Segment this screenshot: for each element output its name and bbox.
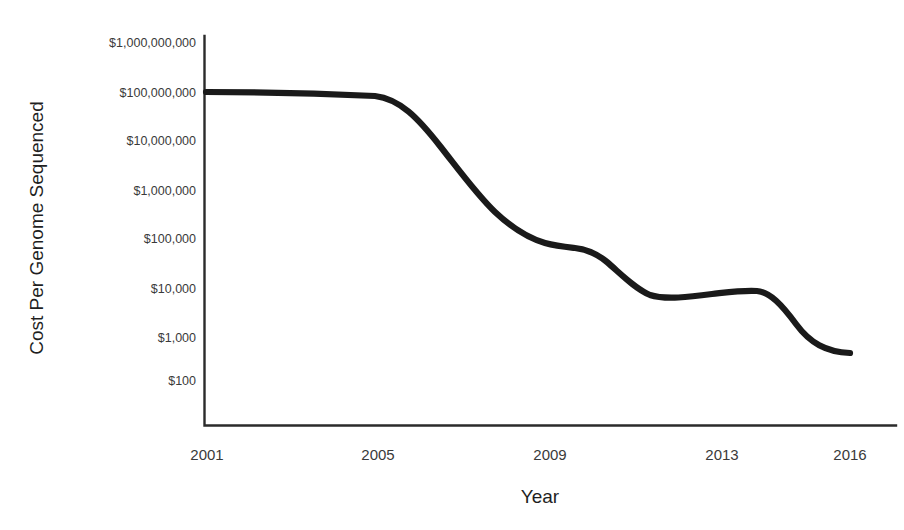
x-tick-label-4: 2016 bbox=[833, 446, 866, 463]
cost-per-genome-chart: $1,000,000,000 $100,000,000 $10,000,000 … bbox=[0, 0, 904, 530]
chart-canvas: $1,000,000,000 $100,000,000 $10,000,000 … bbox=[0, 0, 904, 530]
cost-per-genome-line bbox=[206, 92, 850, 353]
x-tick-label-0: 2001 bbox=[190, 446, 223, 463]
y-tick-label-4: $100,000 bbox=[144, 232, 196, 246]
x-tick-labels: 2001 2005 2009 2013 2016 bbox=[190, 446, 866, 463]
y-tick-label-1: $100,000,000 bbox=[120, 86, 197, 100]
x-tick-label-1: 2005 bbox=[361, 446, 394, 463]
y-tick-label-0: $1,000,000,000 bbox=[109, 36, 196, 50]
y-axis-title: Cost Per Genome Sequenced bbox=[26, 101, 47, 355]
x-axis-title: Year bbox=[521, 486, 560, 507]
y-tick-label-7: $100 bbox=[168, 374, 196, 388]
y-tick-label-6: $1,000 bbox=[158, 331, 196, 345]
y-tick-label-3: $1,000,000 bbox=[133, 184, 196, 198]
y-tick-label-5: $10,000 bbox=[151, 282, 196, 296]
y-tick-label-2: $10,000,000 bbox=[126, 134, 196, 148]
y-tick-labels: $1,000,000,000 $100,000,000 $10,000,000 … bbox=[109, 36, 196, 388]
x-tick-label-3: 2013 bbox=[705, 446, 738, 463]
x-tick-label-2: 2009 bbox=[533, 446, 566, 463]
